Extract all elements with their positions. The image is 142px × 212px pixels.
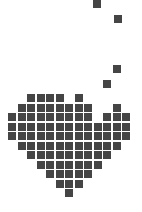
heart-pixel — [18, 104, 26, 112]
heart-pixel — [103, 123, 111, 131]
heart-pixel — [18, 123, 26, 131]
heart-pixel — [46, 123, 54, 131]
heart-pixel — [37, 161, 45, 169]
heart-pixel — [37, 132, 45, 140]
heart-pixel — [56, 170, 64, 178]
heart-pixel — [56, 123, 64, 131]
heart-pixel — [46, 104, 54, 112]
heart-pixel — [84, 113, 92, 121]
heart-pixel — [46, 113, 54, 121]
heart-pixel — [27, 113, 35, 121]
heart-pixel — [94, 123, 102, 131]
floating-pixel — [103, 80, 111, 88]
heart-pixel — [75, 94, 83, 102]
heart-pixel — [27, 104, 35, 112]
heart-pixel — [65, 104, 73, 112]
heart-pixel — [46, 94, 54, 102]
heart-pixel — [37, 104, 45, 112]
heart-pixel — [113, 104, 121, 112]
floating-pixel — [93, 0, 101, 8]
heart-pixel — [75, 113, 83, 121]
heart-pixel — [46, 170, 54, 178]
floating-pixel — [113, 65, 121, 73]
heart-pixel — [65, 123, 73, 131]
heart-pixel — [46, 142, 54, 150]
heart-pixel — [84, 151, 92, 159]
heart-pixel — [113, 142, 121, 150]
heart-pixel — [18, 142, 26, 150]
heart-pixel — [46, 132, 54, 140]
heart-pixel — [75, 123, 83, 131]
heart-pixel — [56, 142, 64, 150]
heart-pixel — [122, 132, 130, 140]
heart-pixel — [27, 132, 35, 140]
heart-pixel — [94, 132, 102, 140]
heart-pixel — [56, 104, 64, 112]
heart-pixel — [103, 113, 111, 121]
heart-pixel — [56, 132, 64, 140]
heart-pixel — [122, 113, 130, 121]
heart-pixel — [65, 151, 73, 159]
heart-pixel — [37, 123, 45, 131]
heart-pixel — [103, 132, 111, 140]
heart-pixel — [84, 104, 92, 112]
heart-pixel — [65, 113, 73, 121]
heart-pixel — [65, 180, 73, 188]
heart-pixel — [8, 123, 16, 131]
heart-pixel — [46, 161, 54, 169]
heart-pixel — [113, 113, 121, 121]
heart-pixel — [56, 151, 64, 159]
heart-pixel — [84, 123, 92, 131]
heart-pixel — [8, 113, 16, 121]
heart-pixel — [37, 142, 45, 150]
heart-pixel — [65, 161, 73, 169]
heart-pixel — [56, 94, 64, 102]
heart-pixel — [84, 132, 92, 140]
heart-pixel — [75, 180, 83, 188]
heart-pixel — [75, 151, 83, 159]
heart-pixel — [37, 113, 45, 121]
heart-pixel — [84, 161, 92, 169]
heart-pixel — [27, 151, 35, 159]
heart-pixel — [56, 161, 64, 169]
floating-pixel — [114, 15, 122, 23]
heart-pixel — [65, 189, 73, 197]
heart-pixel — [8, 132, 16, 140]
heart-pixel — [103, 151, 111, 159]
heart-pixel — [27, 94, 35, 102]
heart-pixel — [75, 170, 83, 178]
heart-pixel — [84, 142, 92, 150]
heart-pixel — [75, 132, 83, 140]
heart-pixel — [37, 151, 45, 159]
heart-pixel — [84, 170, 92, 178]
heart-pixel — [94, 161, 102, 169]
heart-pixel — [56, 113, 64, 121]
heart-pixel — [65, 142, 73, 150]
heart-pixel — [27, 123, 35, 131]
heart-pixel — [75, 104, 83, 112]
heart-pixel — [113, 132, 121, 140]
heart-pixel — [94, 151, 102, 159]
heart-pixel — [65, 170, 73, 178]
pixel-heart-graphic — [0, 0, 142, 212]
heart-pixel — [75, 161, 83, 169]
heart-pixel — [37, 94, 45, 102]
heart-pixel — [113, 123, 121, 131]
heart-pixel — [103, 142, 111, 150]
heart-pixel — [94, 142, 102, 150]
heart-pixel — [18, 132, 26, 140]
heart-pixel — [65, 132, 73, 140]
heart-pixel — [75, 142, 83, 150]
heart-pixel — [122, 123, 130, 131]
heart-pixel — [27, 142, 35, 150]
heart-pixel — [18, 113, 26, 121]
heart-pixel — [56, 180, 64, 188]
heart-pixel — [46, 151, 54, 159]
